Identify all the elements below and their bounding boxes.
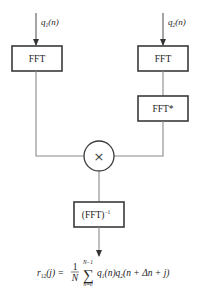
arrowhead-left (33, 39, 39, 46)
arrowhead-right (160, 39, 166, 46)
formula-terms: q1(n)q2(n + Δn + j) (97, 268, 169, 279)
fft-conj-label: FFT* (152, 104, 173, 114)
sum-upper-limit: N−1 (82, 259, 93, 265)
connector-right-to-multiplier (114, 121, 163, 156)
formula-lhs: r12(j) = (37, 268, 64, 279)
arrowhead-output (96, 250, 102, 257)
connector-left-to-multiplier (36, 71, 84, 156)
fft-right-label: FFT (155, 54, 172, 64)
output-formula: r12(j) = 1 N ∑ N−1 n=0 q1(n)q2(n + Δn + … (37, 259, 169, 287)
sum-lower-limit: n=0 (83, 281, 92, 287)
input-label-left: q1(n) (41, 17, 59, 28)
correlation-diagram: q1(n) q2(n) FFT FFT FFT* × (FFT)−1 r12(j… (0, 0, 198, 301)
fft-left-label: FFT (29, 54, 46, 64)
multiply-icon: × (94, 149, 105, 164)
fraction-numerator: 1 (73, 262, 78, 272)
fraction-denominator: N (71, 273, 79, 283)
input-label-right: q2(n) (168, 17, 186, 28)
